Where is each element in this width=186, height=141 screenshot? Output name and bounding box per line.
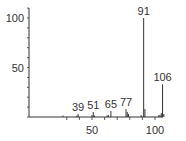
mass-spectrum-chart: 50100 50100 3951657791106 [0,0,186,141]
x-axis: 50100 [29,117,164,136]
peak-label: 39 [72,101,84,113]
peak-label: 51 [87,99,99,111]
y-tick-label: 100 [6,12,24,24]
x-tick-label: 50 [86,124,98,136]
peak-label: 91 [138,5,150,17]
peak-label: 77 [120,96,132,108]
x-tick-label: 100 [146,124,164,136]
peak-labels: 3951657791106 [72,5,172,113]
peak-label: 65 [105,98,117,110]
y-tick-label: 50 [12,62,24,74]
y-axis: 50100 [6,8,29,117]
peak-label: 106 [153,71,171,83]
